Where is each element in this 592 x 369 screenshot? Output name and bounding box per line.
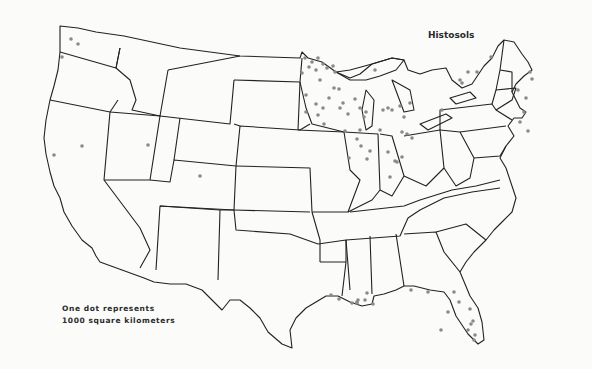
histosol-dot	[341, 101, 345, 105]
histosol-dot	[368, 149, 372, 153]
histosol-dot	[386, 106, 390, 110]
histosol-dot	[426, 290, 430, 294]
histosol-dot	[472, 338, 476, 342]
histosol-dot	[338, 106, 342, 110]
histosol-dot	[314, 68, 318, 72]
histosol-dot	[310, 60, 314, 64]
histosol-dot	[388, 175, 392, 179]
histosol-dot	[390, 108, 394, 112]
histosol-dot	[378, 128, 382, 132]
histosol-dot	[466, 70, 470, 74]
histosol-dot	[371, 302, 375, 306]
map-title: Histosols	[428, 30, 474, 40]
histosol-dot	[359, 144, 363, 148]
histosol-dot	[52, 153, 56, 157]
histosol-dot	[69, 37, 73, 41]
histosol-dot	[402, 115, 406, 119]
histosol-dot	[304, 110, 308, 114]
histosol-dot	[337, 297, 341, 301]
histosol-dot	[316, 113, 320, 117]
histosol-dot	[475, 70, 479, 74]
histosol-dot	[410, 136, 414, 140]
histosol-dot	[405, 132, 409, 136]
histosol-dot	[526, 129, 530, 133]
histosol-dot	[333, 70, 337, 74]
histosol-dot	[471, 319, 475, 323]
histosol-dot	[400, 155, 404, 159]
histosol-dot	[518, 120, 522, 124]
histosol-dot	[386, 150, 390, 154]
histosol-dot	[321, 106, 325, 110]
histosol-dot	[452, 290, 456, 294]
histosol-dot	[327, 96, 331, 100]
histosol-dot	[409, 288, 413, 292]
histosol-dot	[304, 93, 308, 97]
histosol-dot	[329, 293, 333, 297]
histosol-dot	[303, 56, 307, 60]
histosol-dot	[314, 102, 318, 106]
histosol-dot	[350, 301, 354, 305]
histosol-dot	[362, 115, 366, 119]
histosol-dot	[358, 106, 362, 110]
histosol-dot	[198, 174, 202, 178]
histosol-dot	[316, 56, 320, 60]
histosol-dot	[489, 55, 493, 59]
histosol-dot	[307, 65, 311, 69]
histosol-dot	[528, 70, 532, 74]
histosol-dot	[331, 64, 335, 68]
histosol-dots	[52, 37, 534, 342]
histosol-dot	[530, 77, 534, 81]
histosol-dot	[466, 328, 470, 332]
histosol-dot	[458, 78, 462, 82]
histosol-dot	[446, 310, 450, 314]
histosol-dot	[395, 160, 399, 164]
histosol-dot	[365, 291, 369, 295]
histosol-dot	[346, 112, 350, 116]
histosol-dot	[321, 62, 325, 66]
legend-line-2: 1000 square kilometers	[62, 315, 175, 327]
histosol-dot	[347, 156, 351, 160]
histosol-dot	[373, 68, 377, 72]
map-legend: One dot represents 1000 square kilometer…	[62, 303, 175, 327]
legend-line-1: One dot represents	[62, 303, 175, 315]
histosol-dot	[322, 122, 326, 126]
histosol-dot	[60, 55, 64, 59]
histosol-dot	[364, 110, 368, 114]
histosol-dot	[337, 87, 341, 91]
histosol-dot	[460, 81, 464, 85]
histosol-dot	[318, 78, 322, 82]
histosol-dot	[146, 143, 150, 147]
histosol-dot	[440, 108, 444, 112]
histosol-dot	[381, 108, 385, 112]
histosol-dot	[300, 71, 304, 75]
histosol-dot	[365, 157, 369, 161]
histosol-dot	[400, 130, 404, 134]
histosol-dot	[469, 322, 473, 326]
histosol-dot	[408, 101, 412, 105]
histosol-dot	[355, 300, 359, 304]
histosol-dot	[363, 298, 367, 302]
histosol-dot	[522, 110, 526, 114]
histosol-dot	[353, 97, 357, 101]
histosol-dot	[473, 333, 477, 337]
histosol-dot	[325, 66, 329, 70]
histosol-dot	[457, 300, 461, 304]
histosol-dot	[358, 128, 362, 132]
histosol-dot	[343, 129, 347, 133]
histosol-dot	[80, 144, 84, 148]
histosol-dot	[76, 42, 80, 46]
histosol-dot	[439, 328, 443, 332]
histosol-dot	[355, 137, 359, 141]
histosol-dot	[524, 96, 528, 100]
state-boundaries	[44, 26, 532, 348]
histosol-dot	[468, 307, 472, 311]
histosol-dot	[332, 86, 336, 90]
histosol-dot	[398, 104, 402, 108]
histosol-dot	[516, 88, 520, 92]
